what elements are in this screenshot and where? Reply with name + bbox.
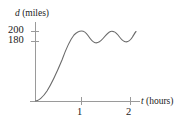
distance-curve <box>36 31 137 101</box>
x-axis-unit: (hours) <box>146 96 173 106</box>
xtick-label-2: 2 <box>126 107 131 118</box>
x-axis-title: t (hours) <box>141 97 173 107</box>
axes-group <box>30 22 140 101</box>
y-axis-unit: (miles) <box>22 8 49 18</box>
ytick-label-180: 180 <box>8 35 24 46</box>
distance-time-plot <box>0 0 181 130</box>
tick-marks-group <box>31 31 130 105</box>
chart-figure: d (miles) t (hours) 200 180 1 2 <box>0 0 181 130</box>
y-axis-title: d (miles) <box>15 9 49 19</box>
xtick-label-1: 1 <box>77 107 82 118</box>
